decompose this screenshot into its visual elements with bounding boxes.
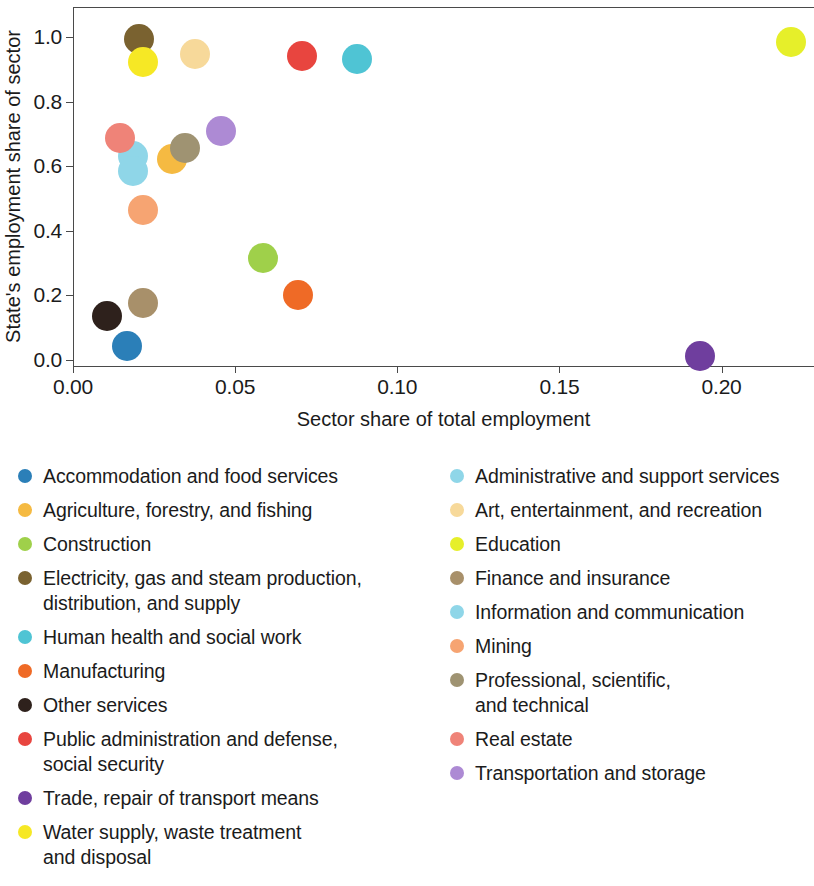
scatter-point — [105, 123, 135, 153]
legend-item-label: Education — [475, 532, 561, 557]
legend-item-label: Accommodation and food services — [43, 464, 338, 489]
y-tick-mark — [66, 102, 73, 103]
legend-item-label: Water supply, waste treatment and dispos… — [43, 820, 301, 870]
legend-swatch-icon — [18, 791, 32, 805]
legend-item-label: Manufacturing — [43, 659, 165, 684]
legend-item[interactable]: Accommodation and food services — [18, 464, 338, 489]
x-axis-title: Sector share of total employment — [73, 408, 814, 431]
legend-swatch-icon — [450, 503, 464, 517]
x-tick-mark — [235, 366, 236, 373]
y-tick-mark — [66, 37, 73, 38]
legend-item-label: Other services — [43, 693, 167, 718]
legend-swatch-icon — [450, 732, 464, 746]
legend-item-label: Trade, repair of transport means — [43, 786, 319, 811]
legend-item-label: Information and communication — [475, 600, 744, 625]
scatter-point — [92, 301, 122, 331]
scatter-point — [248, 243, 278, 273]
x-tick-mark — [397, 366, 398, 373]
scatter-point — [128, 47, 158, 77]
legend-swatch-icon — [18, 503, 32, 517]
scatter-point — [170, 133, 200, 163]
legend-item[interactable]: Public administration and defense, socia… — [18, 727, 338, 777]
x-tick-mark — [559, 366, 560, 373]
x-tick-label: 0.05 — [215, 375, 255, 399]
legend-swatch-icon — [450, 639, 464, 653]
legend-item[interactable]: Manufacturing — [18, 659, 165, 684]
y-tick-label: 1.0 — [33, 25, 62, 49]
legend-item[interactable]: Professional, scientific, and technical — [450, 668, 671, 718]
scatter-point — [180, 39, 210, 69]
legend-item[interactable]: Mining — [450, 634, 532, 659]
legend-swatch-icon — [450, 673, 464, 687]
legend-swatch-icon — [18, 630, 32, 644]
scatter-point — [112, 331, 142, 361]
legend-swatch-icon — [18, 537, 32, 551]
legend-item-label: Administrative and support services — [475, 464, 779, 489]
legend-item[interactable]: Information and communication — [450, 600, 744, 625]
legend-swatch-icon — [450, 766, 464, 780]
legend-item[interactable]: Real estate — [450, 727, 573, 752]
y-tick-label: 0.8 — [33, 90, 62, 114]
scatter-point — [776, 27, 806, 57]
y-tick-mark — [66, 231, 73, 232]
legend-item[interactable]: Trade, repair of transport means — [18, 786, 319, 811]
scatter-chart-figure: State's employment share of sector 0.00.… — [0, 0, 814, 445]
legend-swatch-icon — [18, 698, 32, 712]
legend-swatch-icon — [450, 605, 464, 619]
scatter-point — [283, 280, 313, 310]
legend-swatch-icon — [18, 732, 32, 746]
legend-item-label: Real estate — [475, 727, 573, 752]
legend-swatch-icon — [18, 664, 32, 678]
legend-item[interactable]: Agriculture, forestry, and fishing — [18, 498, 312, 523]
legend-item-label: Mining — [475, 634, 532, 659]
x-tick-mark — [73, 366, 74, 373]
legend-item[interactable]: Other services — [18, 693, 167, 718]
legend-swatch-icon — [450, 571, 464, 585]
legend-item[interactable]: Construction — [18, 532, 151, 557]
x-tick-label: 0.20 — [702, 375, 742, 399]
legend-item[interactable]: Water supply, waste treatment and dispos… — [18, 820, 301, 870]
scatter-point — [206, 116, 236, 146]
legend-swatch-icon — [450, 537, 464, 551]
y-tick-label: 0.4 — [33, 219, 62, 243]
y-tick-label: 0.2 — [33, 283, 62, 307]
legend-item[interactable]: Transportation and storage — [450, 761, 706, 786]
x-tick-label: 0.00 — [53, 375, 93, 399]
y-tick-mark — [66, 295, 73, 296]
legend-swatch-icon — [18, 469, 32, 483]
plot-area — [73, 7, 814, 366]
legend-item-label: Human health and social work — [43, 625, 301, 650]
legend-item[interactable]: Administrative and support services — [450, 464, 779, 489]
legend-item-label: Professional, scientific, and technical — [475, 668, 671, 718]
legend-item[interactable]: Human health and social work — [18, 625, 301, 650]
legend-swatch-icon — [18, 571, 32, 585]
legend-item[interactable]: Education — [450, 532, 561, 557]
scatter-point — [287, 41, 317, 71]
x-tick-mark — [722, 366, 723, 373]
scatter-point — [128, 288, 158, 318]
legend-item[interactable]: Art, entertainment, and recreation — [450, 498, 762, 523]
y-tick-label: 0.6 — [33, 154, 62, 178]
legend-item-label: Construction — [43, 532, 151, 557]
legend-item-label: Transportation and storage — [475, 761, 706, 786]
legend-item-label: Art, entertainment, and recreation — [475, 498, 762, 523]
legend-item-label: Electricity, gas and steam production, d… — [43, 566, 362, 616]
scatter-point — [128, 195, 158, 225]
scatter-point — [342, 44, 372, 74]
x-tick-label: 0.15 — [539, 375, 579, 399]
scatter-point — [118, 156, 148, 186]
legend-swatch-icon — [18, 825, 32, 839]
chart-legend: Accommodation and food servicesAgricultu… — [0, 450, 814, 886]
y-tick-label: 0.0 — [33, 348, 62, 372]
y-axis-title: State's employment share of sector — [0, 7, 26, 366]
legend-item-label: Agriculture, forestry, and fishing — [43, 498, 312, 523]
legend-swatch-icon — [450, 469, 464, 483]
legend-item-label: Public administration and defense, socia… — [43, 727, 338, 777]
x-tick-label: 0.10 — [377, 375, 417, 399]
legend-item[interactable]: Finance and insurance — [450, 566, 670, 591]
legend-item-label: Finance and insurance — [475, 566, 670, 591]
y-tick-mark — [66, 360, 73, 361]
legend-item[interactable]: Electricity, gas and steam production, d… — [18, 566, 362, 616]
scatter-point — [685, 341, 715, 371]
y-tick-mark — [66, 166, 73, 167]
